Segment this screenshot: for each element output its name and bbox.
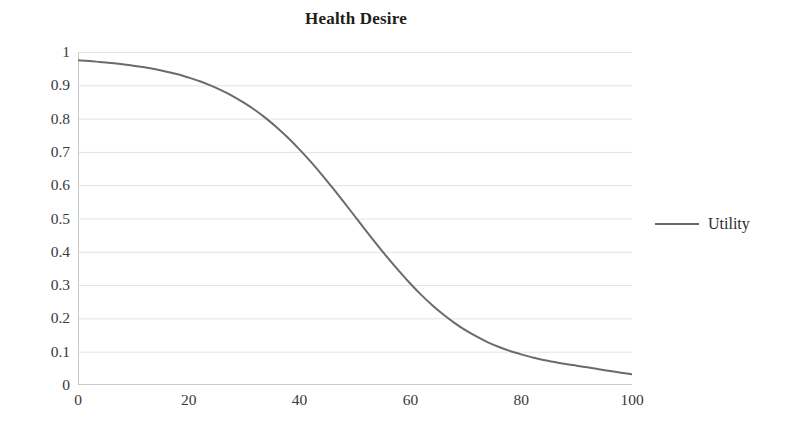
plot-svg	[78, 52, 632, 385]
x-tick-label: 40	[292, 392, 308, 408]
series-line-utility	[78, 60, 632, 374]
chart-container: Health Desire 00.10.20.30.40.50.60.70.80…	[0, 0, 798, 444]
x-tick-label: 80	[513, 392, 529, 408]
y-tick-label: 0.1	[0, 344, 70, 360]
y-tick-label: 0.2	[0, 311, 70, 327]
y-tick-label: 1	[0, 44, 70, 60]
y-tick-label: 0.8	[0, 111, 70, 127]
legend-line-swatch-icon	[655, 223, 699, 225]
y-tick-label: 0.5	[0, 211, 70, 227]
y-tick-label: 0.7	[0, 144, 70, 160]
y-tick-label: 0.4	[0, 244, 70, 260]
y-tick-label: 0.6	[0, 177, 70, 193]
chart-title: Health Desire	[0, 9, 712, 29]
plot-area	[78, 52, 632, 385]
x-tick-label: 100	[620, 392, 643, 408]
x-tick-label: 0	[74, 392, 82, 408]
x-axis-tick-labels: 020406080100	[78, 392, 632, 416]
y-axis-tick-labels: 00.10.20.30.40.50.60.70.80.91	[0, 52, 70, 385]
y-tick-label: 0.9	[0, 78, 70, 94]
legend-label-utility: Utility	[708, 216, 750, 232]
x-tick-label: 60	[403, 392, 419, 408]
y-tick-label: 0.3	[0, 277, 70, 293]
gridlines	[78, 53, 632, 386]
chart-legend: Utility	[655, 216, 750, 232]
y-tick-label: 0	[0, 377, 70, 393]
data-series	[78, 60, 632, 374]
x-tick-label: 20	[181, 392, 197, 408]
